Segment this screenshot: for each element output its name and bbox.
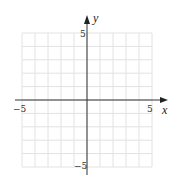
tick-label-y-neg5: −5 <box>74 161 88 171</box>
y-axis-arrow-icon <box>84 15 90 24</box>
x-axis-label: x <box>161 103 168 117</box>
tick-label-y-5: 5 <box>80 29 86 39</box>
tick-label-x-5: 5 <box>147 104 153 114</box>
y-axis-label: y <box>92 11 99 25</box>
coordinate-plane: y x 5 −5 −5 5 <box>0 0 175 180</box>
tick-label-x-neg5: −5 <box>13 104 27 114</box>
